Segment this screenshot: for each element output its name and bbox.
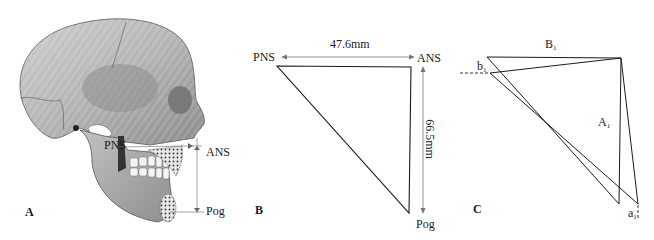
label-b1-lower: b1 xyxy=(477,60,487,74)
label-a1-upper: A1 xyxy=(598,116,610,130)
panel-letter-c: C xyxy=(473,203,482,215)
panel-a-skull: PNS ANS Pog A xyxy=(0,0,235,240)
landmark-ans-label: ANS xyxy=(417,52,441,64)
triangle-original xyxy=(487,57,621,204)
symphysis-section xyxy=(160,194,176,222)
panel-b-triangle: PNS ANS Pog 47.6mm 66.5mm B xyxy=(235,0,445,240)
panel-c-superimposition: B1 b1 A1 a1 C xyxy=(445,0,654,240)
landmark-pog-label: Pog xyxy=(206,205,225,217)
measurement-vertical: 66.5mm xyxy=(424,119,436,159)
measurement-horizontal: 47.6mm xyxy=(330,38,370,50)
pns-ans-pog-triangle xyxy=(277,66,411,213)
temporal-fossa xyxy=(82,64,158,112)
orbit xyxy=(168,86,192,114)
landmark-pns-label: PNS xyxy=(253,51,275,63)
panel-letter-a: A xyxy=(25,206,34,218)
landmark-pog-label: Pog xyxy=(416,218,435,230)
triangle-diagram xyxy=(235,0,445,240)
triangle-changed xyxy=(490,58,638,204)
landmark-pns-label: PNS xyxy=(104,139,126,151)
landmark-ans-label: ANS xyxy=(206,146,230,158)
label-b1-upper: B1 xyxy=(545,38,557,52)
skull-illustration xyxy=(0,0,235,240)
label-a1-lower: a1 xyxy=(628,207,637,221)
panel-letter-b: B xyxy=(255,204,263,216)
